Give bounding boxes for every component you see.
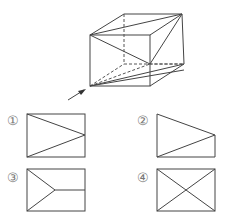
option-3-line-bottom xyxy=(27,190,55,211)
section-line-top-diagonal xyxy=(90,14,182,35)
option-1-rect xyxy=(27,114,85,157)
option-1-line-bottom xyxy=(27,135,85,157)
option-2-label: ② xyxy=(137,113,149,128)
section-line-bottom-2 xyxy=(90,70,184,86)
option-4[interactable]: ④ xyxy=(137,169,215,211)
option-3[interactable]: ③ xyxy=(7,169,85,211)
option-3-label: ③ xyxy=(7,170,19,185)
option-2-diagonal xyxy=(157,135,215,157)
option-4-label: ④ xyxy=(137,170,149,185)
option-1[interactable]: ① xyxy=(7,113,85,157)
cube-back-right-edge xyxy=(182,14,184,64)
option-3-line-top xyxy=(27,169,55,190)
section-line-hidden-1 xyxy=(90,64,150,86)
section-line-front-diagonal xyxy=(90,35,150,64)
section-line-bottom-1 xyxy=(90,64,184,86)
section-line-right-diagonal xyxy=(150,14,182,64)
cube-front-face xyxy=(90,35,150,86)
option-2[interactable]: ② xyxy=(137,113,215,157)
diagram-canvas: ① ② ③ ④ xyxy=(0,0,226,220)
option-2-trapezoid xyxy=(157,114,215,157)
option-1-label: ① xyxy=(7,113,19,128)
cube-figure xyxy=(90,14,184,86)
view-arrow-icon xyxy=(68,89,86,100)
option-1-line-top xyxy=(27,114,85,135)
